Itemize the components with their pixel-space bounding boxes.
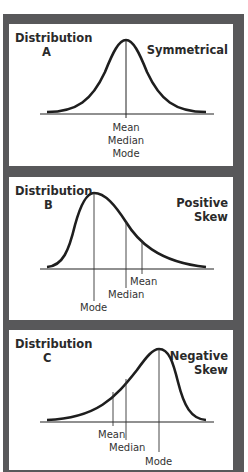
mean-label: Mean bbox=[98, 429, 125, 440]
symmetrical-curve-graphic: Distribution A Symmetrical Mean Median M… bbox=[9, 24, 233, 166]
panel-c-type-line2: Skew bbox=[194, 363, 228, 377]
median-label: Median bbox=[108, 289, 144, 300]
panel-b-letter: B bbox=[44, 198, 53, 212]
negative-skew-curve-graphic: Distribution C Negative Skew Mean Median… bbox=[9, 330, 233, 470]
panel-a-title: Distribution bbox=[15, 31, 92, 45]
panel-c-title: Distribution bbox=[15, 337, 92, 351]
panel-distribution-a: Distribution A Symmetrical Mean Median M… bbox=[9, 24, 233, 166]
mean-label: Mean bbox=[112, 122, 139, 133]
panel-b-type-line1: Positive bbox=[176, 196, 228, 210]
panel-b-type-line2: Skew bbox=[194, 210, 228, 224]
panel-a-letter: A bbox=[42, 45, 51, 59]
mean-label: Mean bbox=[130, 276, 157, 287]
mode-label: Mode bbox=[112, 148, 139, 159]
panel-distribution-c: Distribution C Negative Skew Mean Median… bbox=[9, 330, 233, 470]
mode-label: Mode bbox=[145, 456, 172, 467]
panel-c-letter: C bbox=[43, 351, 51, 365]
median-label: Median bbox=[109, 442, 145, 453]
mode-label: Mode bbox=[80, 302, 107, 313]
panel-distribution-b: Distribution B Positive Skew Mean Median… bbox=[9, 177, 233, 320]
median-label: Median bbox=[108, 135, 144, 146]
positive-skew-curve-graphic: Distribution B Positive Skew Mean Median… bbox=[9, 177, 233, 320]
panel-b-title: Distribution bbox=[15, 184, 92, 198]
panel-a-type: Symmetrical bbox=[147, 43, 228, 57]
panel-c-type-line1: Negative bbox=[170, 349, 228, 363]
